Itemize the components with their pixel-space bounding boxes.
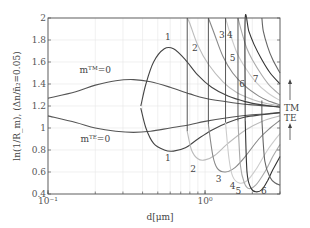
series-line-tm-1 [141,47,280,107]
series-line-te-4 [226,123,281,184]
annotation-label: 6 [261,186,267,196]
y-tick-label: 1.8 [32,35,47,45]
te-label: TE [284,113,297,123]
annotation-label: 2 [192,43,198,53]
annotation-label: 1 [165,32,171,42]
y-tick-label: 0.8 [32,145,47,155]
x-axis: 10⁻¹10⁰ [38,190,280,206]
annotation-label: 7 [253,74,259,84]
te-arrowhead-icon [288,123,292,128]
y-tick-label: 0.6 [32,167,47,177]
annotation-label: 2 [190,164,196,174]
x-axis-label: d[μm] [146,212,173,222]
annotation-label: 1 [165,153,171,163]
y-tick-label: 2 [40,13,46,23]
annotation-label: mᵀᴹ=0 [80,65,112,75]
series-line-te-7 [262,120,280,185]
series-line-te-5 [238,121,280,188]
x-tick-label: 10⁰ [198,196,213,206]
annotation-label: 5 [230,53,236,63]
tm-label: TM [284,103,299,113]
annotation-label: 3 [216,174,222,184]
annotation-label: 6 [239,79,245,89]
y-tick-label: 1.6 [32,57,47,67]
y-tick-label: 1.2 [32,101,46,111]
annotations: mᵀᴹ=0mᵀᴱ=01234567123456 [80,30,267,196]
tm-arrowhead-icon [288,79,292,84]
side-labels: TM TE [284,79,299,140]
chart: 0.40.60.811.21.41.61.82 10⁻¹10⁰ mᵀᴹ=0mᵀᴱ… [0,0,310,228]
annotation-label: mᵀᴱ=0 [80,134,110,144]
x-tick-label: 10⁻¹ [38,196,58,206]
annotation-label: 5 [236,186,242,196]
y-tick-label: 1 [40,123,46,133]
y-tick-label: 1.4 [32,79,47,89]
annotation-label: 3 [219,30,225,40]
annotation-label: 4 [227,30,233,40]
y-axis-label: ln(1/R_m), (Δn/n̄₂=0.05) [12,51,23,160]
